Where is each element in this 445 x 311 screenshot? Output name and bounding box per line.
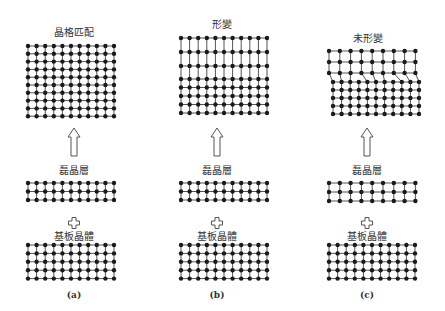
panel-a-caption: (a) — [54, 290, 94, 300]
panel-a-epi-lattice — [26, 181, 126, 211]
up-arrow-icon — [67, 127, 81, 157]
panel-c-result-lattice — [327, 49, 427, 119]
panel-c-substrate-lattice — [327, 243, 427, 283]
panel-a-epi-label: 磊晶層 — [44, 162, 104, 177]
panel-a-top-label: 晶格匹配 — [44, 24, 104, 39]
panel-c: 未形變 磊晶層 基板晶體 (c) — [296, 0, 444, 311]
panel-b-top-label: 形變 — [192, 16, 252, 31]
panel-c-caption: (c) — [347, 290, 387, 300]
panel-c-epi-lattice — [327, 181, 427, 211]
panel-a-substrate-label: 基板晶體 — [44, 228, 104, 243]
panel-b-substrate-label: 基板晶體 — [187, 228, 247, 243]
panel-c-epi-label: 磊晶層 — [337, 162, 397, 177]
panel-b-result-lattice — [179, 36, 279, 116]
panel-b-substrate-lattice — [179, 243, 279, 283]
panel-b-epi-lattice — [179, 181, 279, 211]
panel-a-result-lattice — [26, 44, 126, 114]
panel-c-top-label: 未形變 — [338, 30, 398, 45]
up-arrow-icon — [360, 127, 374, 157]
panel-c-substrate-label: 基板晶體 — [337, 228, 397, 243]
up-arrow-icon — [210, 127, 224, 157]
panel-a: 晶格匹配 磊晶層 基板晶體 (a) — [0, 0, 148, 311]
panel-b-caption: (b) — [197, 290, 237, 300]
panel-a-substrate-lattice — [26, 243, 126, 283]
panel-b-epi-label: 磊晶層 — [187, 162, 247, 177]
panel-b: 形變 磊晶層 基板晶體 (b) — [148, 0, 296, 311]
